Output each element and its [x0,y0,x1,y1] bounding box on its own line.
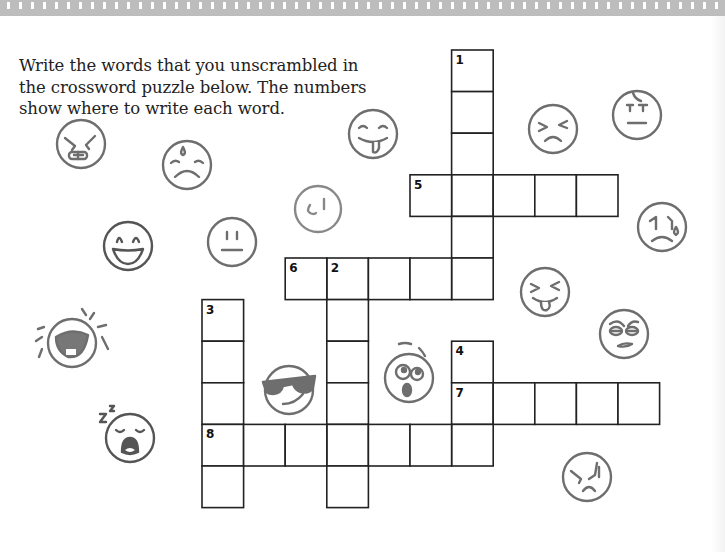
furious-face-icon [563,453,611,501]
sunglasses-face-icon [263,366,315,414]
eye-roll-face-icon [600,310,648,358]
smirk-face-icon [295,186,341,232]
crying-face-icon [638,203,686,251]
sleepy-yawn-face-icon [100,406,154,462]
angry-grimace-face-icon [57,120,105,168]
annoyed-face-icon [613,91,661,139]
tongue-out-face-icon [349,110,397,158]
grinning-face-icon [104,222,152,270]
squinting-tongue-face-icon [521,268,569,316]
emoji-decorations [0,0,725,552]
squinting-frown-face-icon [529,105,577,153]
shocked-face-icon [385,343,433,402]
sad-sweat-face-icon [163,141,211,189]
neutral-face-icon [208,218,256,266]
laughing-tears-face-icon [36,309,108,367]
